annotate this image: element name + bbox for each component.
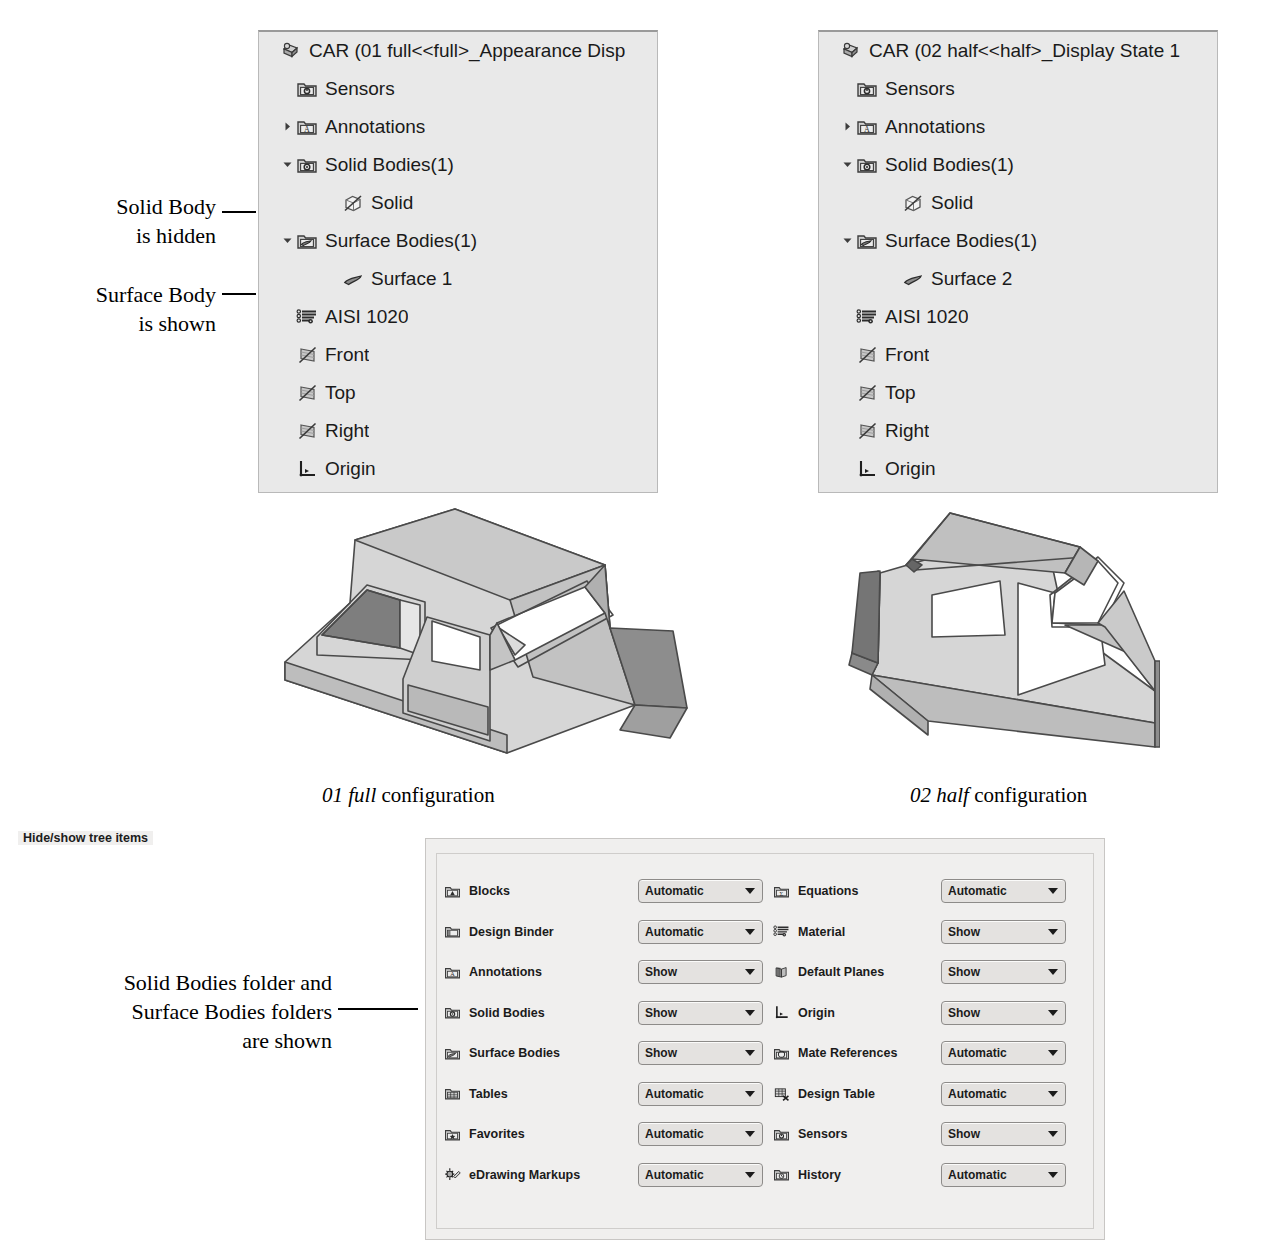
visibility-dropdown-right[interactable]: Show xyxy=(941,1122,1066,1146)
tree-item-row-label: Tables xyxy=(442,1085,638,1103)
tree-item[interactable]: Right xyxy=(259,412,657,450)
chevron-down-icon[interactable] xyxy=(1048,1050,1058,1056)
tree-item[interactable]: Origin xyxy=(259,450,657,488)
tree-item[interactable]: Front xyxy=(259,336,657,374)
chevron-down-icon[interactable] xyxy=(745,1091,755,1097)
chevron-down-icon[interactable] xyxy=(745,888,755,894)
visibility-dropdown-left[interactable]: Show xyxy=(638,1001,763,1025)
tree-item[interactable]: Sensors xyxy=(259,70,657,108)
tree-item[interactable]: Solid xyxy=(819,184,1217,222)
chevron-down-icon[interactable] xyxy=(1048,1172,1058,1178)
tree-item[interactable]: Origin xyxy=(819,450,1217,488)
combo-value: Show xyxy=(645,1006,741,1020)
feature-tree-panel-right[interactable]: CAR (02 half<<half>_Display State 1 Sens… xyxy=(818,30,1218,493)
tree-item-row-label: Sensors xyxy=(771,1125,941,1143)
chevron-down-icon[interactable] xyxy=(745,929,755,935)
visibility-dropdown-right[interactable]: Automatic xyxy=(941,1041,1066,1065)
caption-config-suffix: configuration xyxy=(376,783,494,807)
tree-item[interactable]: Front xyxy=(819,336,1217,374)
chevron-down-icon[interactable] xyxy=(745,969,755,975)
tree-item-setting-row: Design BinderAutomaticMaterialShow xyxy=(442,912,1096,953)
tree-item[interactable]: Surface 2 xyxy=(819,260,1217,298)
chevron-down-icon[interactable] xyxy=(839,235,855,248)
annotations-folder-icon: A xyxy=(442,963,462,981)
visibility-dropdown-right[interactable]: Automatic xyxy=(941,1163,1066,1187)
tree-item-label: Sensors xyxy=(325,78,395,100)
callout-surface-body-shown: Surface Body is shown xyxy=(20,280,216,338)
tree-item[interactable]: AAnnotations xyxy=(819,108,1217,146)
callout-folders-shown: Solid Bodies folder and Surface Bodies f… xyxy=(12,968,332,1055)
tree-item[interactable]: AISI 1020 xyxy=(259,298,657,336)
surface-bodies-folder-icon xyxy=(855,229,879,253)
tree-item-label: AISI 1020 xyxy=(885,306,968,328)
chevron-down-icon[interactable] xyxy=(1048,1010,1058,1016)
tree-item-row-label: AAnnotations xyxy=(442,963,638,981)
chevron-down-icon[interactable] xyxy=(1048,969,1058,975)
tree-item[interactable]: Solid xyxy=(259,184,657,222)
sensors-folder-icon xyxy=(855,77,879,101)
visibility-dropdown-right[interactable]: Show xyxy=(941,920,1066,944)
callout-leader-line xyxy=(222,293,256,295)
hide-show-tree-items-dialog[interactable]: BlocksAutomaticΣEquationsAutomaticDesign… xyxy=(425,838,1105,1240)
visibility-dropdown-left[interactable]: Automatic xyxy=(638,1163,763,1187)
sensors-folder-icon xyxy=(771,1125,791,1143)
chevron-right-icon[interactable] xyxy=(839,121,855,134)
chevron-down-icon[interactable] xyxy=(1048,1131,1058,1137)
visibility-dropdown-right[interactable]: Show xyxy=(941,1001,1066,1025)
tree-root-item[interactable]: CAR (02 half<<half>_Display State 1 xyxy=(819,32,1217,70)
combo-value: Show xyxy=(645,1046,741,1060)
tree-item[interactable]: Right xyxy=(819,412,1217,450)
chevron-down-icon[interactable] xyxy=(279,159,295,172)
tree-item[interactable]: Solid Bodies(1) xyxy=(259,146,657,184)
tree-item-label: Surface 2 xyxy=(931,268,1012,290)
tree-item-label: Solid xyxy=(371,192,413,214)
tree-item[interactable]: Solid Bodies(1) xyxy=(819,146,1217,184)
visibility-dropdown-left[interactable]: Automatic xyxy=(638,1082,763,1106)
item-label: Design Binder xyxy=(469,925,554,939)
caption-02-half: 02 half configuration xyxy=(910,783,1087,808)
chevron-right-icon[interactable] xyxy=(279,121,295,134)
tree-item[interactable]: Surface Bodies(1) xyxy=(819,222,1217,260)
tree-item-row-label: Favorites xyxy=(442,1125,638,1143)
callout-leader-line xyxy=(222,211,256,213)
chevron-down-icon[interactable] xyxy=(745,1172,755,1178)
tree-item[interactable]: Surface 1 xyxy=(259,260,657,298)
item-label: History xyxy=(798,1168,841,1182)
visibility-dropdown-left[interactable]: Show xyxy=(638,960,763,984)
chevron-down-icon[interactable] xyxy=(1048,929,1058,935)
visibility-dropdown-right[interactable]: Automatic xyxy=(941,879,1066,903)
visibility-dropdown-right[interactable]: Show xyxy=(941,960,1066,984)
visibility-dropdown-left[interactable]: Automatic xyxy=(638,920,763,944)
tree-item[interactable]: Top xyxy=(819,374,1217,412)
material-icon xyxy=(771,923,791,941)
chevron-down-icon[interactable] xyxy=(745,1010,755,1016)
tree-root-item[interactable]: CAR (01 full<<full>_Appearance Disp xyxy=(259,32,657,70)
chevron-down-icon[interactable] xyxy=(745,1050,755,1056)
chevron-down-icon[interactable] xyxy=(839,159,855,172)
tree-item[interactable]: AISI 1020 xyxy=(819,298,1217,336)
tree-item-label: Surface Bodies(1) xyxy=(885,230,1037,252)
tree-item[interactable]: Top xyxy=(259,374,657,412)
tree-item-label: Right xyxy=(325,420,369,442)
tree-item-row-label: Design Binder xyxy=(442,923,638,941)
tree-item[interactable]: Sensors xyxy=(819,70,1217,108)
visibility-dropdown-left[interactable]: Automatic xyxy=(638,1122,763,1146)
tree-item-label: Annotations xyxy=(325,116,425,138)
tree-item[interactable]: Surface Bodies(1) xyxy=(259,222,657,260)
callout-line: is shown xyxy=(20,309,216,338)
chevron-down-icon[interactable] xyxy=(745,1131,755,1137)
feature-tree-panel-left[interactable]: CAR (01 full<<full>_Appearance Disp Sens… xyxy=(258,30,658,493)
chevron-down-icon[interactable] xyxy=(279,235,295,248)
visibility-dropdown-right[interactable]: Automatic xyxy=(941,1082,1066,1106)
item-label: Equations xyxy=(798,884,858,898)
chevron-down-icon[interactable] xyxy=(1048,1091,1058,1097)
tree-item-label: Top xyxy=(325,382,356,404)
tree-item-row-label: Mate References xyxy=(771,1044,941,1062)
visibility-dropdown-left[interactable]: Show xyxy=(638,1041,763,1065)
tree-item-row-label: Material xyxy=(771,923,941,941)
tree-item[interactable]: AAnnotations xyxy=(259,108,657,146)
svg-text:Σ: Σ xyxy=(779,889,783,896)
visibility-dropdown-left[interactable]: Automatic xyxy=(638,879,763,903)
chevron-down-icon[interactable] xyxy=(1048,888,1058,894)
tree-items-grid: BlocksAutomaticΣEquationsAutomaticDesign… xyxy=(442,871,1096,1235)
